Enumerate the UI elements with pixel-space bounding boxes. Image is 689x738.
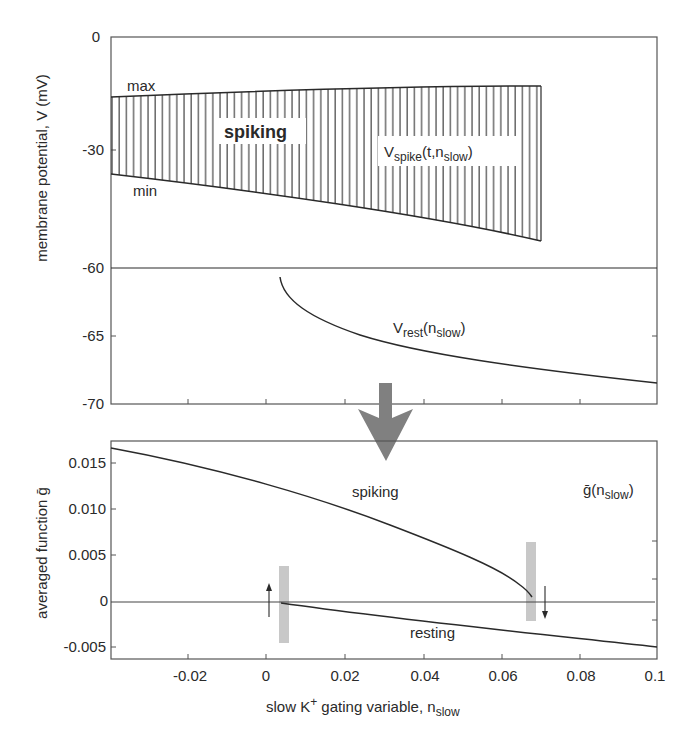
bottom-xtick-002: 0.02 (330, 667, 359, 684)
figure: 0 -30 -60 -65 -70 membrane potential, V … (0, 0, 689, 738)
g-function-label: ḡ(nslow) (583, 481, 634, 502)
top-ytick-minus30: -30 (82, 141, 104, 158)
big-down-arrow-icon (358, 383, 413, 461)
bottom-xtick-0: 0 (262, 667, 270, 684)
bottom-ytick-0005: 0.005 (68, 546, 106, 563)
bottom-ytick-0015: 0.015 (68, 454, 106, 471)
bottom-ytick-0010: 0.010 (68, 500, 106, 517)
up-arrow-icon (266, 583, 272, 617)
vrest-label: Vrest(nslow) (393, 319, 465, 340)
top-ytick-minus60: -60 (82, 259, 104, 276)
bottom-xtick-006: 0.06 (488, 667, 517, 684)
max-label: max (127, 77, 156, 94)
vrest-curve (280, 277, 657, 383)
bottom-ytick-0: 0 (100, 592, 108, 609)
top-ytick-minus70: -70 (82, 395, 104, 412)
bottom-plot-frame (111, 441, 657, 659)
resting-g-curve (281, 603, 657, 647)
right-transition-band (526, 542, 536, 621)
bottom-xtick-01: 0.1 (645, 667, 666, 684)
bottom-x-ticks (188, 654, 580, 659)
bottom-x-axis-title: slow K+ gating variable, nslow (266, 695, 460, 719)
top-ytick-0: 0 (92, 28, 100, 45)
spiking-curve-label: spiking (352, 483, 399, 500)
top-ytick-minus65: -65 (82, 327, 104, 344)
bottom-xtick-004: 0.04 (410, 667, 439, 684)
bottom-panel: 0.015 0.010 0.005 0 -0.005 -0.02 0 0.02 … (33, 441, 665, 719)
bottom-xtick-008: 0.08 (566, 667, 595, 684)
resting-curve-label: resting (410, 624, 455, 641)
spiking-g-curve (111, 448, 532, 597)
bottom-xtick-minus002: -0.02 (173, 667, 207, 684)
top-y-axis-title: membrane potential, V (mV) (33, 74, 50, 262)
spiking-region-label: spiking (224, 122, 287, 142)
min-label: min (133, 182, 157, 199)
bottom-ytick-minus0005: -0.005 (63, 638, 106, 655)
top-panel: 0 -30 -60 -65 -70 membrane potential, V … (33, 28, 657, 412)
bottom-y-axis-title: averaged function ḡ (33, 487, 50, 619)
